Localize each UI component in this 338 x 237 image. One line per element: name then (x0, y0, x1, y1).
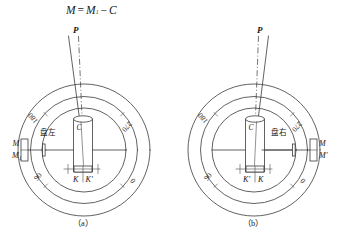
figure-root: M=M1−C P 180 270 90 0 (0, 0, 338, 237)
dial-label-90-a: 90 (32, 171, 44, 183)
reading-label-m-a: M (12, 139, 21, 148)
formula-correction: C (109, 4, 117, 16)
index-label-kprime-a: K′ (85, 175, 93, 184)
formula-minus: − (100, 4, 107, 16)
panel-b: P 180 270 90 0 C (188, 25, 328, 228)
index-label-k-a: K (72, 175, 79, 184)
reading-index-mark-b (293, 144, 296, 156)
reading-index-mark-a (43, 144, 46, 156)
formula-title: M=M1−C (65, 4, 117, 16)
formula-rhs-subscript: 1 (96, 10, 99, 16)
panel-a: P 180 270 90 0 (11, 25, 150, 228)
plate-position-label-a: 盘左 (40, 127, 56, 137)
plate-position-label-b: 盘右 (271, 127, 287, 137)
dial-label-90-b: 90 (202, 171, 214, 183)
index-label-k-b: K (257, 175, 264, 184)
theodolite-diagram: M=M1−C P 180 270 90 0 (0, 0, 338, 237)
target-label-p-b: P (257, 25, 263, 35)
reading-label-m1-a: M₁ (11, 151, 22, 160)
formula-equals: = (78, 4, 85, 16)
index-label-kprime-b: K′ (242, 175, 250, 184)
target-label-p-a: P (73, 25, 79, 35)
caption-b: （b） (243, 219, 263, 228)
caption-a: （a） (73, 219, 93, 228)
reading-label-mprime-b: M′ (318, 151, 328, 160)
reading-label-m-b: M (318, 139, 327, 148)
barrel-top-ellipse-b (246, 116, 265, 122)
formula-lhs: M (65, 4, 77, 16)
barrel-top-ellipse-a (74, 116, 93, 122)
